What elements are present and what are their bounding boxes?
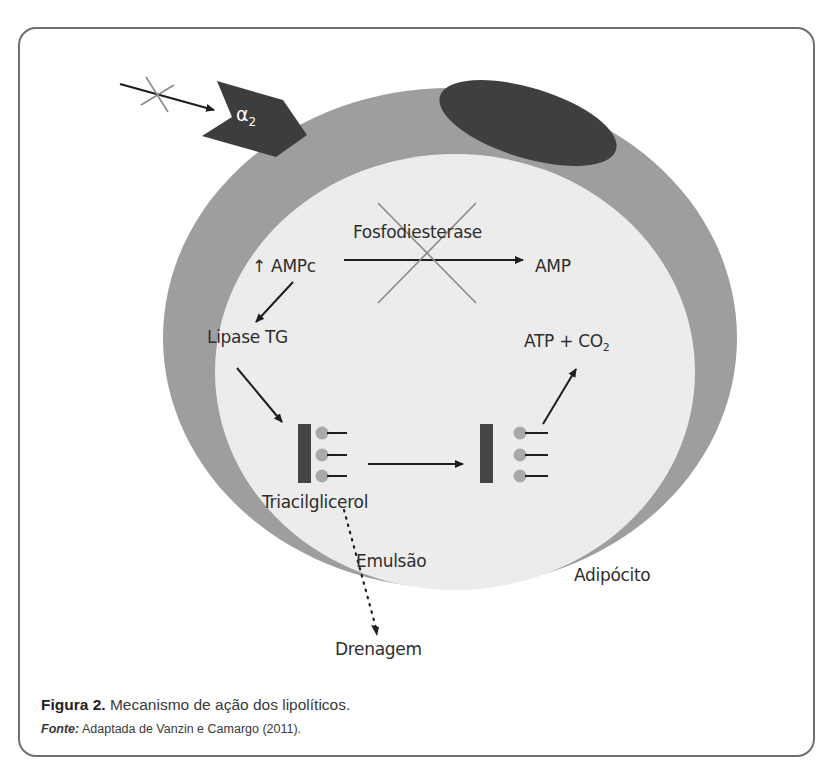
caption-text: Mecanismo de ação dos lipolíticos. [106,696,351,713]
ampc-label: ↑ AMPc [252,256,316,276]
emulsion-label: Emulsão [356,551,426,571]
figure-source: Fonte: Adaptada de Vanzin e Camargo (201… [41,722,301,736]
source-label: Fonte: [41,722,79,736]
atp-co2-label: ATP + CO2 [524,331,610,354]
lipase-label: Lipase TG [207,327,288,347]
receptor-label: α2 [236,103,256,129]
drainage-arrowhead-icon [371,625,379,636]
source-text: Adaptada de Vanzin e Camargo (2011). [79,722,301,736]
phosphodiesterase-label: Fosfodiesterase [353,222,482,242]
lipolysis-diagram [0,0,837,776]
amp-label: AMP [535,256,571,276]
figure-caption: Figura 2. Mecanismo de ação dos lipolíti… [41,696,350,714]
inhibition-cross-icon-stroke [141,85,174,105]
adipocyte-label: Adipócito [574,565,650,585]
drainage-label: Drenagem [335,639,422,659]
caption-label: Figura 2. [41,696,106,713]
blocked-agonist-arrow [120,84,214,110]
triglyceride-label: Triacilglicerol [262,492,368,512]
cytoplasm [215,154,695,590]
